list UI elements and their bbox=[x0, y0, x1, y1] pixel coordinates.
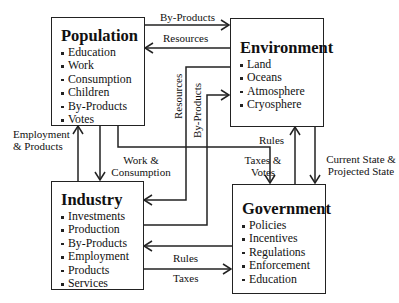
node-industry: Industry Investments Production By-Produ… bbox=[51, 181, 144, 290]
node-items: Education Work Consumption Children By-P… bbox=[61, 46, 144, 126]
list-item: Employment bbox=[61, 250, 143, 263]
node-government: Government Policies Incentives Regulatio… bbox=[232, 184, 326, 294]
edge-label-gov-to-env: Rules bbox=[259, 134, 284, 146]
list-item: Education bbox=[61, 46, 144, 59]
edge-label-pop-to-env: By-Products bbox=[160, 11, 215, 23]
label-line: Current State & bbox=[323, 153, 399, 165]
node-title: Government bbox=[242, 199, 325, 218]
label-line: Consumption bbox=[109, 166, 173, 178]
list-item: Atmosphere bbox=[240, 85, 323, 98]
edge-label-pop-to-gov: Taxes & Votes bbox=[243, 154, 283, 178]
label-line: Taxes & bbox=[243, 154, 283, 166]
label-line: & Products bbox=[13, 140, 70, 152]
edge-label-env-to-ind: Resources bbox=[172, 74, 184, 119]
list-item: Enforcement bbox=[242, 259, 325, 272]
label-line: Work & bbox=[109, 154, 173, 166]
list-item: Education bbox=[242, 273, 325, 286]
list-item: Land bbox=[240, 58, 323, 71]
list-item: Products bbox=[61, 264, 143, 277]
edge-label-ind-to-pop: Employment & Products bbox=[13, 128, 70, 152]
node-population: Population Education Work Consumption Ch… bbox=[51, 17, 145, 126]
edge-label-ind-to-env: By-Products bbox=[191, 83, 203, 138]
node-items: Investments Production By-Products Emplo… bbox=[61, 210, 143, 290]
list-item: By-Products bbox=[61, 100, 144, 113]
list-item: Votes bbox=[61, 113, 144, 126]
edge-label-env-to-pop: Resources bbox=[163, 32, 208, 44]
node-items: Land Oceans Atmosphere Cryosphere bbox=[240, 58, 323, 112]
edge-label-env-to-gov: Current State & Projected State bbox=[323, 153, 399, 177]
node-items: Policies Incentives Regulations Enforcem… bbox=[242, 219, 325, 286]
list-item: Cryosphere bbox=[240, 98, 323, 111]
list-item: Children bbox=[61, 86, 144, 99]
edge-label-pop-to-ind: Work & Consumption bbox=[109, 154, 173, 178]
list-item: By-Products bbox=[61, 237, 143, 250]
edge-env-to-ind bbox=[144, 67, 230, 200]
edge-label-ind-to-gov: Taxes bbox=[173, 272, 199, 284]
label-line: Projected State bbox=[323, 165, 399, 177]
list-item: Services bbox=[61, 277, 143, 290]
node-title: Population bbox=[61, 26, 144, 45]
list-item: Consumption bbox=[61, 73, 144, 86]
label-line: Employment bbox=[13, 128, 70, 140]
list-item: Oceans bbox=[240, 71, 323, 84]
list-item: Production bbox=[61, 223, 143, 236]
list-item: Policies bbox=[242, 219, 325, 232]
list-item: Work bbox=[61, 59, 144, 72]
node-title: Environment bbox=[240, 38, 323, 57]
list-item: Investments bbox=[61, 210, 143, 223]
node-title: Industry bbox=[61, 190, 143, 209]
node-environment: Environment Land Oceans Atmosphere Cryos… bbox=[230, 18, 324, 127]
label-line: Votes bbox=[243, 166, 283, 178]
list-item: Regulations bbox=[242, 246, 325, 259]
list-item: Incentives bbox=[242, 232, 325, 245]
edge-label-gov-to-ind: Rules bbox=[173, 252, 198, 264]
